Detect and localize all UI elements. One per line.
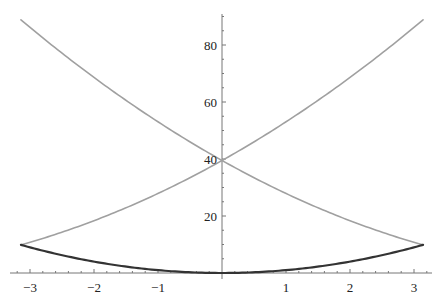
x-tick-label: −2 bbox=[87, 280, 101, 295]
x-tick-label: −1 bbox=[151, 280, 165, 295]
x-tick-label: 1 bbox=[283, 280, 290, 295]
y-tick-label: 40 bbox=[204, 152, 217, 167]
y-tick-label: 20 bbox=[204, 209, 217, 224]
x-tick-label: −3 bbox=[23, 280, 37, 295]
y-tick-label: 80 bbox=[204, 38, 217, 53]
tick-labels: −3−2−112320406080 bbox=[23, 38, 417, 296]
axes bbox=[10, 14, 432, 279]
line-chart: −3−2−112320406080 bbox=[0, 0, 442, 304]
x-tick-label: 3 bbox=[411, 280, 418, 295]
y-tick-label: 60 bbox=[204, 95, 217, 110]
x-tick-label: 2 bbox=[347, 280, 354, 295]
